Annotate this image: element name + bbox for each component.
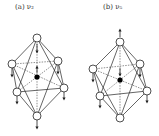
octahedron-diagram-a bbox=[0, 0, 80, 136]
atom-node-upper-left bbox=[8, 60, 16, 68]
atom-node-upper-left bbox=[89, 65, 97, 73]
atom-node-lower-right bbox=[143, 87, 151, 95]
atom-node-lower-left bbox=[13, 88, 21, 96]
atom-node-lower-left bbox=[96, 92, 104, 100]
octahedron-diagram-b bbox=[79, 0, 159, 136]
atom-node-lower-right bbox=[60, 84, 68, 92]
panel-a: (a) ν₂ bbox=[0, 0, 80, 136]
panel-b: (b) ν₅ bbox=[79, 0, 159, 136]
center-atom bbox=[34, 74, 39, 79]
atom-node-bottom bbox=[33, 112, 41, 120]
center-atom bbox=[117, 77, 122, 82]
atom-node-upper-right bbox=[54, 57, 62, 65]
atom-node-top bbox=[116, 38, 124, 46]
atom-node-upper-right bbox=[136, 60, 144, 68]
atom-node-bottom bbox=[116, 114, 124, 122]
atom-node-top bbox=[33, 34, 41, 42]
